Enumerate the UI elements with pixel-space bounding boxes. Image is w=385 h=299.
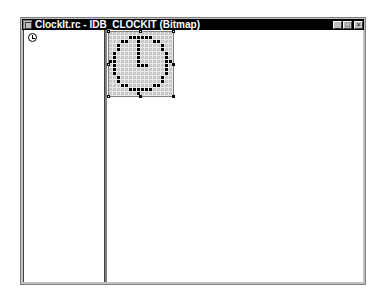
preview-pane <box>23 30 104 282</box>
title-buttons: _ □ × <box>332 21 363 29</box>
window-title: ClockIt.rc - IDB_CLOCKIT (Bitmap) <box>35 19 200 30</box>
resize-handle-top-left <box>107 30 110 33</box>
resize-handle-top-right <box>172 30 175 33</box>
maximize-button[interactable]: □ <box>343 21 352 29</box>
resize-handle-left <box>107 63 110 66</box>
resize-handle-bottom[interactable] <box>139 95 142 98</box>
client-area <box>22 30 364 283</box>
bitmap-grid[interactable] <box>108 31 174 97</box>
clock-icon <box>28 33 37 42</box>
resize-handle-bottom-left <box>107 95 110 98</box>
bitmap-app-icon[interactable] <box>23 20 32 29</box>
title-bar[interactable]: ClockIt.rc - IDB_CLOCKIT (Bitmap) _ □ × <box>22 19 364 30</box>
bitmap-editor-window: ClockIt.rc - IDB_CLOCKIT (Bitmap) _ □ × <box>20 17 366 285</box>
resize-handle-top <box>139 30 142 33</box>
minimize-button[interactable]: _ <box>333 21 342 29</box>
zoomed-edit-pane[interactable] <box>107 30 363 282</box>
resize-handle-right[interactable] <box>172 63 175 66</box>
close-button[interactable]: × <box>354 21 363 29</box>
resize-handle-bottom-right[interactable] <box>172 95 175 98</box>
